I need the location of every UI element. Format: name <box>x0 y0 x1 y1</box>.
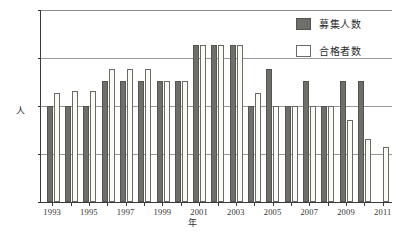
x-tickmark <box>89 203 90 206</box>
x-tickmark <box>291 203 292 206</box>
year-group <box>117 10 135 202</box>
bar-pass <box>292 106 298 203</box>
x-tickmark <box>346 203 347 206</box>
x-axis: 1993199519971999200120032005200720092011 <box>40 203 392 225</box>
x-tickmark <box>126 203 127 206</box>
x-tickmark <box>364 203 365 206</box>
year-group <box>227 10 245 202</box>
legend-item-recruit: 募集人数 <box>296 16 361 31</box>
bar-recruit <box>340 81 346 202</box>
bar-recruit <box>47 106 53 203</box>
bar-recruit <box>303 81 309 202</box>
x-tickmark <box>273 203 274 206</box>
x-tick-label: 2005 <box>264 208 282 217</box>
bar-recruit <box>358 81 364 202</box>
x-tickmark <box>107 203 108 206</box>
x-tickmark <box>199 203 200 206</box>
year-group <box>81 10 99 202</box>
bar-recruit <box>102 81 108 202</box>
x-tickmark <box>181 203 182 206</box>
x-tickmark <box>254 203 255 206</box>
x-tick-label: 2011 <box>374 208 392 217</box>
year-group <box>264 10 282 202</box>
bar-recruit <box>211 45 217 202</box>
x-tick-label: 1997 <box>117 208 135 217</box>
bar-pass <box>200 45 206 202</box>
bar-recruit <box>65 106 71 203</box>
x-tick-label: 1995 <box>80 208 98 217</box>
bar-pass <box>237 45 243 202</box>
bar-pass <box>72 91 78 202</box>
year-group <box>136 10 154 202</box>
year-group <box>44 10 62 202</box>
x-tick-label: 2009 <box>337 208 355 217</box>
bar-pass <box>127 69 133 202</box>
bar-pass <box>383 147 389 202</box>
bar-recruit <box>248 106 254 203</box>
bar-pass <box>164 81 170 202</box>
bar-recruit <box>285 106 291 203</box>
bar-pass <box>90 91 96 202</box>
year-group <box>62 10 80 202</box>
bar-pass <box>218 45 224 202</box>
bar-recruit <box>193 45 199 202</box>
x-tickmark <box>328 203 329 206</box>
bar-pass <box>273 106 279 203</box>
bar-recruit <box>157 81 163 202</box>
year-group <box>245 10 263 202</box>
bar-recruit <box>175 81 181 202</box>
year-group <box>172 10 190 202</box>
x-tickmark <box>309 203 310 206</box>
x-tickmark <box>52 203 53 206</box>
legend-item-pass: 合格者数 <box>296 43 361 58</box>
legend: 募集人数 合格者数 <box>296 16 361 70</box>
bar-recruit <box>230 45 236 202</box>
x-tickmark <box>144 203 145 206</box>
year-group <box>209 10 227 202</box>
x-tickmark <box>218 203 219 206</box>
x-tick-label: 1993 <box>43 208 61 217</box>
year-group <box>191 10 209 202</box>
bar-pass <box>109 69 115 202</box>
bar-pass <box>310 106 316 203</box>
bar-pass <box>255 93 261 202</box>
bar-pass <box>182 81 188 202</box>
bar-pass <box>328 106 334 203</box>
x-axis-label: 年 <box>188 216 197 229</box>
legend-swatch-pass-icon <box>296 45 311 57</box>
x-tick-label: 2007 <box>300 208 318 217</box>
bar-recruit <box>83 106 89 203</box>
legend-label-recruit: 募集人数 <box>319 16 361 31</box>
bar-pass <box>347 120 353 202</box>
bar-recruit <box>120 81 126 202</box>
year-group <box>154 10 172 202</box>
year-group <box>99 10 117 202</box>
bar-recruit <box>266 69 272 202</box>
bar-pass <box>54 93 60 202</box>
legend-label-pass: 合格者数 <box>319 43 361 58</box>
x-tickmark <box>236 203 237 206</box>
x-tick-label: 2003 <box>227 208 245 217</box>
y-axis-label: 人 <box>16 104 25 117</box>
legend-swatch-recruit-icon <box>296 18 311 30</box>
x-tickmark <box>162 203 163 206</box>
bar-pass <box>365 139 371 202</box>
x-tickmark <box>383 203 384 206</box>
bar-pass <box>145 69 151 202</box>
x-tickmark <box>71 203 72 206</box>
x-tick-label: 1999 <box>153 208 171 217</box>
bar-chart: 80 60 40 20 0 人 199319951997199920012003… <box>0 0 402 251</box>
bar-recruit <box>138 81 144 202</box>
bar-recruit <box>321 106 327 203</box>
year-group <box>374 10 392 202</box>
